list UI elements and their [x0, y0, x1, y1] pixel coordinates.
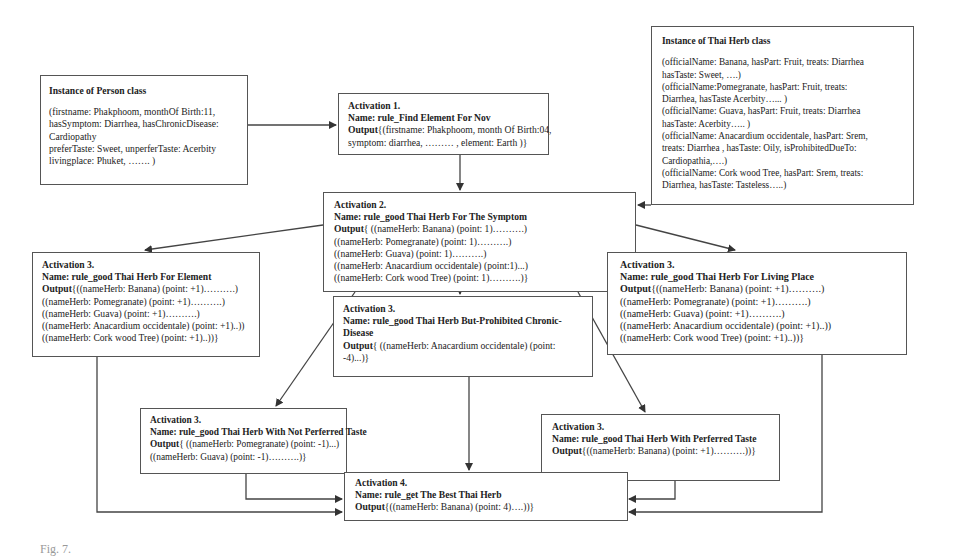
- activation1-output-line: {(firstname: Phakphoom, month Of Birth:0…: [378, 124, 552, 135]
- activation2-output-line: { ((nameHerb: Banana) (point: 1)……….): [364, 223, 527, 234]
- herb-instance-box: Instance of Thai Herb class (officialNam…: [651, 26, 914, 205]
- activation4-title: Activation 4.: [355, 477, 617, 489]
- activation3-element-output-line: ((nameHerb: Guava) (point: +1)……….): [42, 308, 250, 320]
- activation3-not-preferred-rule-name: Name: rule_good Thai Herb With Not Perfe…: [150, 426, 337, 438]
- person-attr-line: Cardiopathy: [49, 131, 239, 143]
- activation3-prohibited-output-line: { ((nameHerb: Anacardium occidentale) (p…: [373, 340, 556, 351]
- activation3-element-output-line: ((nameHerb: Cork wood Tree) (point: +1).…: [42, 332, 250, 344]
- activation2-output-line: ((nameHerb: Pomegranate) (point: 1)……….): [334, 236, 625, 248]
- activation2-title: Activation 2.: [334, 199, 625, 211]
- herb-attr-line: (officialName:Pomegranate, hasPart: Frui…: [662, 81, 903, 93]
- person-attr-line: (firstname: Phakphoom, monthOf Birth:11,: [49, 106, 239, 118]
- herb-attr-line: hasTaste: Acerbity….. ): [662, 118, 903, 130]
- herb-attr-line: hasTaste: Sweet, ….): [662, 69, 903, 81]
- activation3-living-place-output-line: ((nameHerb: Anacardium occidentale) (poi…: [620, 320, 894, 332]
- herb-attr-line: (officialName: Guava, hasPart: Fruit, tr…: [662, 105, 903, 117]
- activation4-rule-name: Name: rule_get The Best Thai Herb: [355, 489, 617, 501]
- activation4-box: Activation 4. Name: rule_get The Best Th…: [344, 472, 628, 521]
- activation2-output-line: ((nameHerb: Guava) (point: 1)……….): [334, 248, 625, 260]
- herb-attr-line: (officialName: Banana, hasPart: Fruit, t…: [662, 56, 903, 68]
- activation1-rule-name: Name: rule_Find Element For Nov: [348, 112, 539, 124]
- activation1-title: Activation 1.: [348, 100, 539, 112]
- activation3-element-box: Activation 3. Name: rule_good Thai Herb …: [32, 252, 260, 357]
- activation3-element-output-line: {((nameHerb: Banana) (point: +1)……….): [72, 283, 238, 294]
- activation2-box: Activation 2. Name: rule_good Thai Herb …: [323, 192, 636, 292]
- activation3-prohibited-output-label: Output: [343, 340, 373, 351]
- activation3-element-rule-name: Name: rule_good Thai Herb For Element: [42, 271, 250, 283]
- activation3-living-place-output-label: Output: [620, 283, 651, 294]
- activation3-not-preferred-box: Activation 3. Name: rule_good Thai Herb …: [140, 408, 347, 474]
- activation2-output-label: Output: [334, 223, 364, 234]
- activation3-prohibited-output-line: -4)...)}: [343, 352, 583, 364]
- activation3-element-output-line: ((nameHerb: Pomegranate) (point: +1)……….…: [42, 296, 250, 308]
- person-instance-box: Instance of Person class (firstname: Pha…: [40, 75, 248, 185]
- activation3-living-place-output-line: {((nameHerb: Banana) (point: +1)……….): [651, 283, 824, 294]
- activation2-output-line: ((nameHerb: Anacardium occidentale) (poi…: [334, 260, 625, 272]
- activation3-not-preferred-output-line: { ((nameHerb: Pomegranate) (point: -1)..…: [179, 439, 339, 449]
- arrow-activation2-to-living: [636, 225, 735, 250]
- activation4-output-label: Output: [355, 501, 385, 512]
- activation3-element-output-line: ((nameHerb: Anacardium occidentale) (poi…: [42, 320, 250, 332]
- activation3-prohibited-box: Activation 3. Name: rule_good Thai Herb …: [333, 296, 593, 377]
- arrow-not-preferred-to-activation4: [246, 474, 342, 499]
- activation3-living-place-output-line: ((nameHerb: Guava) (point: +1)……….): [620, 308, 894, 320]
- activation3-not-preferred-output-line: ((nameHerb: Guava) (point: -1)……….)}: [150, 451, 337, 463]
- activation3-preferred-box: Activation 3. Name: rule_good Thai Herb …: [541, 414, 780, 481]
- activation3-element-title: Activation 3.: [42, 259, 250, 271]
- activation1-output-label: Output: [348, 124, 378, 135]
- activation3-preferred-title: Activation 3.: [552, 421, 769, 433]
- person-attr-line: preferTaste: Sweet, unperferTaste: Acerb…: [49, 143, 239, 155]
- activation3-preferred-output-line: {((nameHerb: Banana) (point: +1)……….))}: [582, 445, 756, 456]
- activation3-prohibited-title: Activation 3.: [343, 303, 583, 315]
- activation3-living-place-box: Activation 3. Name: rule_good Thai Herb …: [607, 252, 907, 355]
- activation3-living-place-output-line: ((nameHerb: Cork wood Tree) (point: +1).…: [620, 332, 894, 344]
- activation1-box: Activation 1. Name: rule_Find Element Fo…: [338, 93, 549, 155]
- activation3-living-place-rule-name: Name: rule_good Thai Herb For Living Pla…: [620, 271, 894, 283]
- arrow-activation2-to-element: [145, 225, 323, 250]
- activation3-element-output-label: Output: [42, 283, 72, 294]
- herb-attr-line: Cardiopathia,….): [662, 155, 903, 167]
- person-attr-line: livingplace: Phuket, ……. ): [49, 155, 239, 167]
- activation3-preferred-rule-name: Name: rule_good Thai Herb With Perferred…: [552, 433, 769, 445]
- activation4-output-line: {((nameHerb: Banana) (point: 4)….))}: [385, 501, 534, 512]
- herb-attr-line: Diarrhea, hasTaste: Tasteless…..): [662, 179, 903, 191]
- activation3-prohibited-rule-name: Name: rule_good Thai Herb But-Prohibited…: [343, 315, 583, 327]
- activation1-output-line: symptom: diarrhea, ……… , element: Earth …: [348, 137, 539, 149]
- herb-instance-title: Instance of Thai Herb class: [662, 35, 903, 47]
- person-instance-title: Instance of Person class: [49, 85, 239, 97]
- activation3-not-preferred-output-label: Output: [150, 439, 179, 449]
- herb-attr-line: (officialName: Anacardium occidentale, h…: [662, 130, 903, 142]
- activation3-living-place-title: Activation 3.: [620, 259, 894, 271]
- figure-caption: Fig. 7.: [40, 542, 71, 557]
- activation3-prohibited-rule-name-cont: Disease: [343, 327, 583, 339]
- activation3-preferred-output-label: Output: [552, 445, 582, 456]
- herb-attr-line: treats: Diarrhea , hasTaste: Oily, isPro…: [662, 142, 903, 154]
- activation2-rule-name: Name: rule_good Thai Herb For The Sympto…: [334, 211, 625, 223]
- activation2-output-line: ((nameHerb: Cork wood Tree) (point: 1)………: [334, 272, 625, 284]
- person-attr-line: hasSymptom: Diarrhea, hasChronicDisease:: [49, 118, 239, 130]
- activation3-living-place-output-line: ((nameHerb: Pomegranate) (point: +1)……….…: [620, 296, 894, 308]
- herb-attr-line: (officialName: Cork wood Tree, hasPart: …: [662, 167, 903, 179]
- herb-attr-line: Diarrhea, hasTaste Acerbity…... ): [662, 93, 903, 105]
- arrow-preferred-to-activation4: [629, 481, 675, 499]
- activation3-not-preferred-title: Activation 3.: [150, 414, 337, 426]
